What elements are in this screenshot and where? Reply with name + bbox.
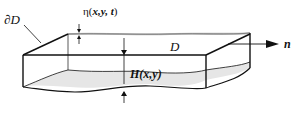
fluid-domain-diagram: ∂D η(x,y, t) D n H(x,y): [0, 0, 306, 113]
eta-label-eta: η(: [83, 5, 93, 18]
right-diagonal-edge: [206, 34, 250, 55]
normal-label: n: [284, 37, 291, 51]
depth-label: H(x,y): [129, 67, 162, 81]
eta-label-args: x,y, t: [91, 5, 114, 17]
left-diagonal-edge: [23, 34, 68, 55]
normal-arrowhead-icon: [266, 40, 279, 48]
depth-arrowhead-up-icon: [121, 91, 127, 96]
boundary-pointer: [24, 25, 41, 43]
domain-label: D: [169, 39, 180, 54]
eta-label: η(x,y, t): [83, 5, 118, 18]
eta-arrowhead-down-icon: [77, 29, 81, 33]
eta-label-close: ): [114, 5, 118, 18]
seabed-front-edge: [23, 86, 206, 92]
eta-arrowhead-up-icon: [77, 35, 81, 39]
boundary-label: ∂D: [4, 12, 20, 27]
